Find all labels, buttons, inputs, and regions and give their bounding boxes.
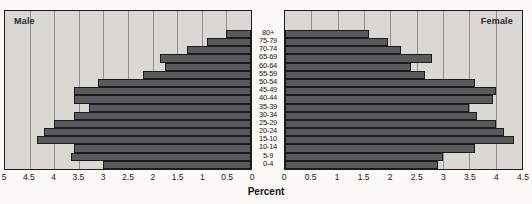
female-bar-35-39 (285, 104, 469, 112)
axis-tick-label: 0 (282, 172, 287, 183)
male-bar-15-10 (37, 136, 251, 144)
percent-axis-label: Percent (0, 186, 532, 197)
male-bar-row (5, 63, 251, 71)
female-bar-70-74 (285, 46, 401, 54)
male-bar-0-4 (103, 161, 251, 169)
axis-tick-label: 3.5 (72, 172, 84, 183)
female-bar-10-14 (285, 144, 475, 152)
male-bar-50-54 (98, 79, 251, 87)
male-bar-20-24 (44, 128, 251, 136)
female-bar-row (285, 112, 522, 120)
male-bar-60-64 (165, 63, 251, 71)
female-bar-55-59 (285, 71, 425, 79)
male-bar-row (5, 38, 251, 46)
female-bar-row (285, 79, 522, 87)
male-bar-row (5, 54, 251, 62)
axis-tick-label: 2 (150, 172, 155, 183)
male-bar-45-49 (74, 87, 251, 95)
axis-tick-label: 4 (51, 172, 56, 183)
female-bar-row (285, 71, 522, 79)
axis-tick-label: 2 (388, 172, 393, 183)
female-bar-row (285, 87, 522, 95)
male-bar-row (5, 79, 251, 87)
female-bar-60-64 (285, 63, 411, 71)
female-bar-row (285, 120, 522, 128)
male-bar-65-69 (160, 54, 251, 62)
female-bar-row (285, 161, 522, 169)
female-bar-row (285, 153, 522, 161)
axis-tick-label: 0.5 (305, 172, 317, 183)
female-bar-0-4 (285, 161, 438, 169)
axis-tick-label: 4.5 (517, 172, 529, 183)
axis-tick-label: 1.5 (172, 172, 184, 183)
female-bar-75-79 (285, 38, 388, 46)
female-bar-row (285, 136, 522, 144)
axis-tick-label: 3 (101, 172, 106, 183)
female-bar-row (285, 54, 522, 62)
male-bar-25-29 (54, 120, 251, 128)
male-bar-55-59 (143, 71, 251, 79)
axis-tick-label: 2.5 (122, 172, 134, 183)
male-bar-row (5, 136, 251, 144)
female-bars (285, 11, 522, 169)
axis-tick-label: 1.5 (358, 172, 370, 183)
male-bar-row (5, 30, 251, 38)
male-bar-row (5, 120, 251, 128)
male-bar-row (5, 104, 251, 112)
male-bar-row (5, 87, 251, 95)
axis-tick-label: 2.5 (411, 172, 423, 183)
female-bar-row (285, 38, 522, 46)
male-panel-label: Male (14, 16, 35, 26)
male-bar-row (5, 46, 251, 54)
population-pyramid-figure: Male 80+75-7970-7465-6960-6455-5950-5445… (0, 0, 532, 204)
female-bar-40-44 (285, 95, 493, 103)
female-panel-label: Female (481, 16, 513, 26)
male-bar-30-34 (74, 112, 251, 120)
male-bar-10-14 (74, 144, 251, 152)
female-bar-row (285, 46, 522, 54)
female-bar-row (285, 95, 522, 103)
female-bar-row (285, 128, 522, 136)
female-bar-row (285, 104, 522, 112)
female-bar-25-29 (285, 120, 496, 128)
male-bar-row (5, 128, 251, 136)
female-bar-80+ (285, 30, 369, 38)
male-bar-row (5, 112, 251, 120)
male-bar-80+ (226, 30, 251, 38)
female-bar-30-34 (285, 112, 477, 120)
female-bar-45-49 (285, 87, 496, 95)
axis-tick-label: 3 (441, 172, 446, 183)
male-bar-row (5, 95, 251, 103)
female-bar-65-69 (285, 54, 432, 62)
female-bar-row (285, 144, 522, 152)
male-bar-row (5, 71, 251, 79)
female-bar-row (285, 63, 522, 71)
axis-tick-label: 4 (494, 172, 499, 183)
male-bar-70-74 (187, 46, 251, 54)
female-bar-5-9 (285, 153, 443, 161)
female-bar-row (285, 30, 522, 38)
male-bar-5-9 (71, 153, 251, 161)
age-group-label: 0-4 (252, 160, 284, 168)
male-bars (5, 11, 251, 169)
axis-tick-label: 4.5 (23, 172, 35, 183)
male-panel: Male (4, 10, 252, 170)
male-bar-35-39 (89, 104, 251, 112)
female-bar-20-24 (285, 128, 504, 136)
male-bar-40-44 (74, 95, 251, 103)
axis-tick-label: 3.5 (464, 172, 476, 183)
male-bar-75-79 (207, 38, 251, 46)
age-group-labels-column: 80+75-7970-7465-6960-6455-5950-5445-4940… (252, 10, 284, 169)
axis-tick-label: 0.5 (221, 172, 233, 183)
female-axis: 00.511.522.533.544.5 (284, 172, 523, 183)
female-panel: Female (284, 10, 523, 170)
male-bar-row (5, 153, 251, 161)
female-bar-50-54 (285, 79, 475, 87)
male-axis: 54.543.532.521.510.50 (4, 172, 252, 183)
female-bar-15-10 (285, 136, 514, 144)
axis-tick-label: 5 (2, 172, 7, 183)
axis-tick-label: 1 (335, 172, 340, 183)
axis-tick-label: 1 (200, 172, 205, 183)
male-bar-row (5, 144, 251, 152)
male-bar-row (5, 161, 251, 169)
